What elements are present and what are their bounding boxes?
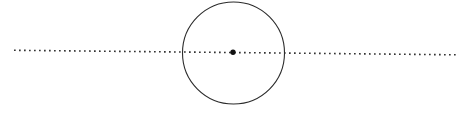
center-point-marker — [230, 50, 235, 55]
geometry-figure — [0, 0, 467, 113]
diagram-canvas — [0, 0, 467, 113]
